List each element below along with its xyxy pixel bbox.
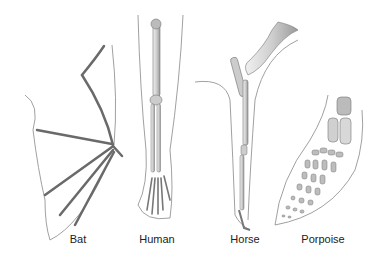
human-arm xyxy=(138,15,183,219)
bat-wing xyxy=(25,45,122,240)
porpoise-flipper xyxy=(275,95,363,225)
label-horse: Horse xyxy=(230,233,259,245)
label-porpoise: Porpoise xyxy=(301,233,344,245)
forelimb-illustration xyxy=(0,0,378,260)
label-bat: Bat xyxy=(70,233,87,245)
label-human: Human xyxy=(139,233,174,245)
horse-leg xyxy=(195,22,298,230)
